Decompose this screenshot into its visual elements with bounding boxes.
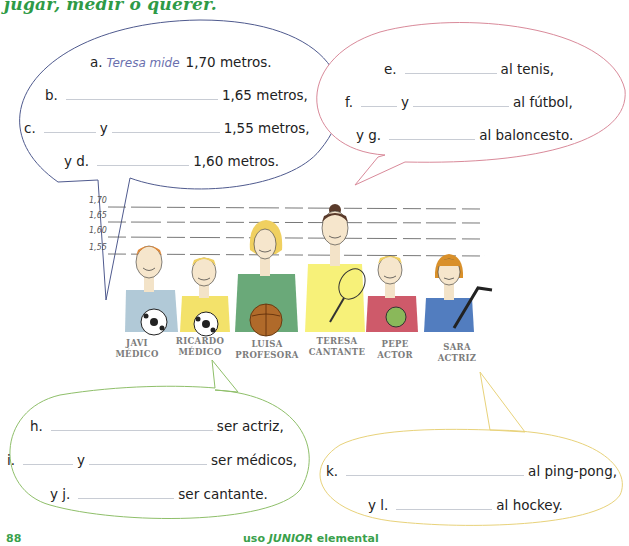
caption-name: SARA	[432, 342, 482, 353]
answer-blank-i1[interactable]	[23, 452, 73, 465]
answer-blank-i2[interactable]	[89, 452, 207, 465]
answer-blank-f2[interactable]	[413, 94, 509, 107]
person-luisa	[235, 220, 298, 336]
sentence-suffix: ser médicos,	[211, 452, 297, 468]
answer-blank-h[interactable]	[51, 418, 213, 431]
sentence-label: k.	[326, 463, 338, 479]
answer-blank-l[interactable]	[396, 497, 492, 510]
sentence-suffix: 1,55 metros,	[224, 120, 310, 136]
sentence-e: e. al tenis,	[384, 61, 554, 77]
book-suffix: elemental	[313, 532, 379, 545]
book-prefix: uso	[243, 532, 269, 545]
sentence-h: h. ser actriz,	[30, 418, 284, 434]
caption-pepe: PEPE ACTOR	[372, 339, 418, 361]
book-series: JUNIOR	[269, 532, 313, 545]
sentence-suffix: 1,70 metros.	[186, 54, 272, 70]
answer-blank-c2[interactable]	[112, 120, 220, 133]
scale-mark-170: 1,70	[89, 196, 107, 205]
person-teresa	[305, 204, 370, 332]
caption-job: PROFESORA	[232, 350, 302, 361]
scale-mark-165: 1,65	[89, 211, 107, 220]
answer-blank-f1[interactable]	[361, 94, 397, 107]
answer-blank-j[interactable]	[78, 486, 174, 499]
sentence-label: y j.	[50, 486, 70, 502]
caption-job: ACTRIZ	[432, 353, 482, 364]
caption-job: MÉDICO	[112, 349, 162, 360]
person-pepe	[366, 256, 418, 332]
caption-sara: SARA ACTRIZ	[432, 342, 482, 364]
sentence-c: c. y 1,55 metros,	[24, 120, 310, 136]
caption-name: PEPE	[372, 339, 418, 350]
sentence-suffix: ser cantante.	[178, 486, 267, 502]
sentence-suffix: 1,65 metros,	[222, 87, 308, 103]
answer-blank-d[interactable]	[97, 153, 189, 166]
answer-blank-b[interactable]	[66, 87, 218, 100]
person-sara	[424, 254, 492, 332]
sentence-f: f. y al fútbol,	[345, 94, 573, 110]
caption-name: TERESA	[305, 336, 369, 347]
caption-job: CANTANTE	[305, 347, 369, 358]
caption-javi: JAVI MÉDICO	[112, 338, 162, 360]
caption-name: LUISA	[232, 339, 302, 350]
sentence-label: f.	[345, 94, 353, 110]
sentence-i: i. y ser médicos,	[7, 452, 297, 468]
sentence-suffix: al tenis,	[501, 61, 555, 77]
book-title: uso JUNIOR elemental	[243, 532, 379, 545]
scale-mark-155: 1,55	[89, 243, 107, 252]
answer-blank-c1[interactable]	[44, 120, 96, 133]
sentence-label: i.	[7, 452, 15, 468]
sentence-label: h.	[30, 418, 43, 434]
sentence-label: a.	[90, 54, 103, 70]
caption-ricardo: RICARDO MÉDICO	[172, 336, 228, 358]
example-answer: Teresa mide	[107, 56, 180, 70]
sentence-label: b.	[45, 87, 58, 103]
scale-mark-160: 1,60	[89, 226, 107, 235]
caption-job: MÉDICO	[172, 347, 228, 358]
sentence-suffix: al ping-pong,	[528, 463, 617, 479]
person-javi	[125, 246, 178, 335]
answer-blank-g[interactable]	[389, 127, 475, 140]
answer-blank-e[interactable]	[405, 61, 497, 74]
sentence-label: c.	[24, 120, 36, 136]
sentence-g: y g. al baloncesto.	[356, 127, 573, 143]
sentence-suffix: al fútbol,	[513, 94, 573, 110]
sentence-suffix: al hockey.	[496, 497, 563, 513]
sentence-d: y d. 1,60 metros.	[64, 153, 279, 169]
sentence-j: y j. ser cantante.	[50, 486, 268, 502]
caption-luisa: LUISA PROFESORA	[232, 339, 302, 361]
answer-blank-k[interactable]	[346, 463, 524, 476]
caption-name: RICARDO	[172, 336, 228, 347]
height-lineup-illustration	[80, 192, 500, 342]
connector: y	[77, 452, 85, 468]
sentence-label: y g.	[356, 127, 381, 143]
sentence-suffix: ser actriz,	[217, 418, 284, 434]
page-number: 88	[6, 532, 21, 545]
sentence-b: b. 1,65 metros,	[45, 87, 308, 103]
caption-teresa: TERESA CANTANTE	[305, 336, 369, 358]
sentence-a: a. Teresa mide 1,70 metros.	[90, 54, 272, 70]
caption-name: JAVI	[112, 338, 162, 349]
connector: y	[401, 94, 409, 110]
sentence-label: e.	[384, 61, 397, 77]
sentence-label: y l.	[368, 497, 388, 513]
sentence-k: k. al ping-pong,	[326, 463, 617, 479]
sentence-suffix: 1,60 metros.	[193, 153, 279, 169]
sentence-suffix: al baloncesto.	[479, 127, 573, 143]
connector: y	[100, 120, 108, 136]
sentence-l: y l. al hockey.	[368, 497, 563, 513]
person-ricardo	[180, 258, 230, 337]
caption-job: ACTOR	[372, 350, 418, 361]
sentence-label: y d.	[64, 153, 89, 169]
